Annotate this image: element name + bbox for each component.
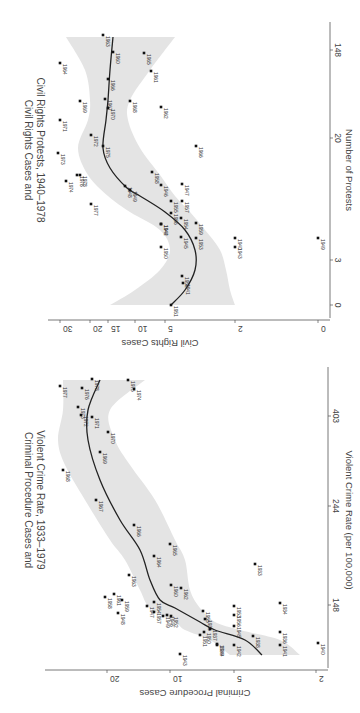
point-year-label: 1970: [110, 433, 115, 444]
point-year-label: 1938: [255, 637, 260, 648]
point-year-label: 1945: [236, 627, 241, 638]
point-year-label: 1937: [212, 630, 217, 641]
data-point: [202, 610, 205, 613]
data-point: [59, 119, 62, 122]
point-year-label: 1943: [237, 248, 242, 259]
data-point: [180, 236, 183, 239]
data-point: [153, 601, 156, 604]
point-year-label: 1945: [183, 238, 188, 249]
point-year-label: 1977: [93, 205, 98, 216]
data-point: [195, 145, 198, 148]
y-tick-label: 20: [93, 324, 103, 334]
civil-rights-chart: Civil Rights Cases and Civil Rights Prot…: [23, 22, 355, 349]
data-point: [90, 203, 93, 206]
point-year-label: 1960: [115, 53, 120, 64]
data-point: [233, 614, 236, 617]
x-tick-label: 148: [333, 43, 343, 57]
point-year-label: 1973: [60, 154, 65, 165]
point-year-label: 1952: [173, 617, 178, 628]
point-year-label: 1966: [136, 526, 141, 537]
point-year-label: 1961: [153, 72, 158, 83]
data-point: [179, 653, 182, 656]
y-tick-label: 30: [63, 324, 73, 334]
point-year-label: 1949: [320, 239, 325, 250]
data-point: [170, 584, 173, 587]
data-point: [107, 431, 110, 434]
data-point: [153, 555, 156, 558]
data-point: [279, 631, 282, 634]
data-point: [57, 152, 60, 155]
data-point: [160, 184, 163, 187]
data-point: [107, 78, 110, 81]
data-point: [252, 635, 255, 638]
point-year-label: 1963: [131, 576, 136, 587]
x-axis-label: Number of Protests: [344, 129, 355, 211]
data-point: [170, 212, 173, 215]
point-year-label: 1976: [84, 389, 89, 400]
point-year-label: 1968: [65, 471, 70, 482]
point-year-label: 1966: [110, 80, 115, 91]
point-year-label: 1934: [282, 604, 287, 615]
point-year-label: 1959: [198, 224, 203, 235]
point-year-label: 1978: [94, 380, 99, 391]
data-point: [279, 644, 282, 647]
data-point: [233, 644, 236, 647]
point-year-label: 1974: [68, 182, 73, 193]
data-point: [195, 222, 198, 225]
data-point: [254, 563, 257, 566]
point-year-label: 1946: [163, 186, 168, 197]
data-point: [59, 62, 62, 65]
point-year-label: 1936: [282, 633, 287, 644]
point-year-label: 1959: [124, 601, 129, 612]
x-tick-label: 20: [333, 133, 343, 143]
data-point: [317, 237, 320, 240]
data-point: [133, 524, 136, 527]
data-point: [170, 304, 173, 307]
data-point: [90, 134, 93, 137]
point-year-label: 1975: [130, 381, 135, 392]
criminal-procedure-chart: Criminal Procedure Cases and Violent Cri…: [23, 367, 355, 699]
data-point: [62, 469, 65, 472]
point-year-label: 1957: [156, 613, 161, 624]
data-point: [195, 237, 198, 240]
point-year-label: 1964: [156, 557, 161, 568]
y-tick-label: 0: [321, 324, 326, 334]
data-point: [146, 605, 149, 608]
data-point: [170, 615, 173, 618]
point-year-label: 1957: [184, 202, 189, 213]
point-year-label: 1951: [202, 636, 207, 647]
y-tick-label: 15: [111, 324, 121, 334]
point-year-label: 1947: [184, 185, 189, 196]
data-point: [81, 387, 84, 390]
point-year-label: 1963: [105, 36, 110, 47]
x-tick-label: 3: [333, 258, 343, 263]
point-year-label: 1944: [219, 646, 224, 657]
data-point: [117, 612, 120, 615]
data-point: [102, 145, 105, 148]
point-year-label: 1965: [146, 54, 151, 65]
data-point: [180, 217, 183, 220]
point-year-label: 1975: [105, 147, 110, 158]
data-point: [182, 282, 185, 285]
data-point: [91, 416, 94, 419]
point-year-label: 1950: [163, 248, 168, 259]
point-year-label: 1955: [173, 202, 178, 213]
point-year-label: 1962: [183, 589, 188, 600]
data-point: [181, 183, 184, 186]
data-point: [128, 574, 131, 577]
point-year-label: 1942: [163, 225, 168, 236]
data-point: [204, 618, 207, 621]
point-year-label: 1978: [82, 176, 87, 187]
point-year-label: 1974: [136, 390, 141, 401]
data-point: [143, 52, 146, 55]
y-tick-label: 5: [237, 674, 242, 684]
y-tick-label: 2: [238, 324, 243, 334]
data-point: [169, 543, 172, 546]
point-year-label: 1964: [62, 64, 67, 75]
data-point: [104, 596, 107, 599]
data-point: [79, 100, 82, 103]
point-year-label: 1951: [173, 306, 178, 317]
point-year-label: 1965: [172, 545, 177, 556]
point-year-label: 1941: [282, 646, 287, 657]
y-axis-label: Criminal Procedure Cases: [139, 688, 250, 699]
